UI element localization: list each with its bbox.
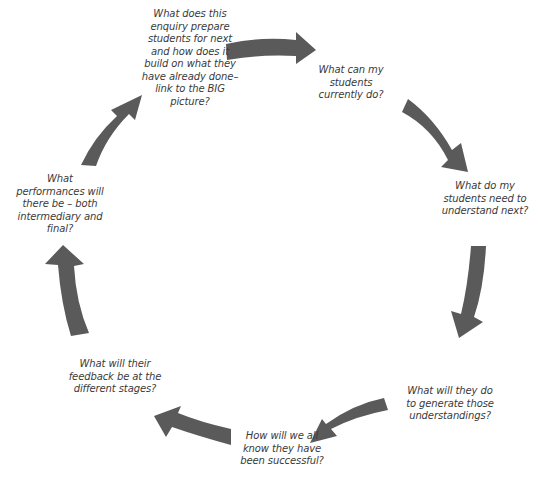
step-feedback-stages: What will their feedback be at the diffe… [55, 358, 175, 396]
step-next-understanding: What do my students need to understand n… [425, 180, 540, 218]
arrow-down-right-icon [402, 99, 468, 172]
arrow-up-right-icon [81, 95, 142, 166]
step-big-picture: What does this enquiry prepare students … [140, 8, 240, 108]
step-measure-success: How will we all know they have been succ… [222, 430, 342, 468]
step-generate-understandings: What will they do to generate those unde… [385, 385, 515, 423]
step-current-abilities: What can my students currently do? [296, 64, 406, 102]
step-performances: What performances will there be – both i… [0, 173, 120, 236]
enquiry-planning-cycle: What can my students currently do? What … [0, 0, 540, 488]
arrow-down-icon [451, 246, 486, 338]
arrow-up-icon [45, 245, 89, 336]
arrow-left-icon [154, 406, 231, 445]
